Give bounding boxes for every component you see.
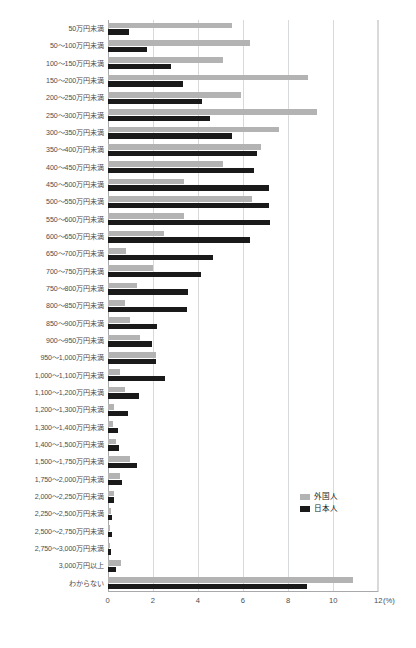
bar-japanese (108, 549, 111, 555)
category-label: わからない (69, 575, 104, 593)
bar-foreign (108, 231, 164, 237)
bar-row: 300〜350万円未満 (108, 124, 379, 142)
bar-row: 450〜500万円未満 (108, 176, 379, 194)
category-label: 750〜800万円未満 (46, 280, 104, 298)
bar-foreign (108, 508, 111, 514)
bar-japanese (108, 428, 118, 434)
bar-row: 1,400〜1,500万円未満 (108, 436, 379, 454)
bar-row: 800〜850万円未満 (108, 297, 379, 315)
category-label: 200〜250万円未満 (46, 89, 104, 107)
bar-foreign (108, 352, 156, 358)
bar-japanese (108, 272, 202, 278)
bar-japanese (108, 255, 213, 261)
bar-row: 150〜200万円未満 (108, 72, 379, 90)
bar-japanese (108, 64, 171, 70)
bar-row: 50〜100万円未満 (108, 37, 379, 55)
bar-japanese (108, 133, 232, 139)
bar-japanese (108, 81, 184, 87)
bar-row: 950〜1,000万円未満 (108, 349, 379, 367)
bar-row: 650〜700万円未満 (108, 245, 379, 263)
bar-row: 400〜450万円未満 (108, 159, 379, 177)
x-tick-0: 0 (106, 596, 110, 605)
bar-row: 100〜150万円未満 (108, 55, 379, 73)
bar-row: 3,000万円以上 (108, 557, 379, 575)
bar-row: 1,750〜2,000万円未満 (108, 471, 379, 489)
bar-foreign (108, 439, 116, 445)
bar-foreign (108, 421, 114, 427)
category-label: 500〜550万円未満 (46, 193, 104, 211)
bar-japanese (108, 29, 129, 35)
bar-japanese (108, 289, 188, 295)
bar-japanese (108, 203, 269, 209)
bar-japanese (108, 307, 187, 313)
category-label: 1,300〜1,400万円未満 (35, 419, 104, 437)
bar-foreign (108, 75, 309, 81)
bar-foreign (108, 283, 137, 289)
bar-japanese (108, 116, 211, 122)
category-label: 2,750〜3,000万円未満 (35, 540, 104, 558)
chart-legend: 外国人 日本人 (300, 493, 338, 513)
legend-label-foreign: 外国人 (314, 493, 338, 501)
bar-japanese (108, 393, 140, 399)
bar-japanese (108, 567, 116, 573)
bar-foreign (108, 560, 122, 566)
bar-japanese (108, 168, 255, 174)
bar-japanese (108, 532, 113, 538)
category-label: 1,750〜2,000万円未満 (35, 471, 104, 489)
bar-japanese (108, 151, 257, 157)
bar-foreign (108, 40, 250, 46)
category-label: 150〜200万円未満 (46, 72, 104, 90)
bar-row: 600〜650万円未満 (108, 228, 379, 246)
bar-foreign (108, 473, 120, 479)
bar-foreign (108, 265, 153, 271)
bar-foreign (108, 57, 223, 63)
bar-japanese (108, 47, 147, 53)
bar-foreign (108, 144, 261, 150)
bar-foreign (108, 109, 318, 115)
bar-row: 550〜600万円未満 (108, 211, 379, 229)
bar-japanese (108, 445, 119, 451)
bar-foreign (108, 23, 232, 29)
category-label: 2,000〜2,250万円未満 (35, 488, 104, 506)
bar-row: 2,500〜2,750万円未満 (108, 523, 379, 541)
x-tick-10: 10 (329, 596, 337, 605)
category-label: 1,200〜1,300万円未満 (35, 401, 104, 419)
bar-japanese (108, 220, 270, 226)
bar-foreign (108, 335, 141, 341)
bar-foreign (108, 248, 126, 254)
bar-row: 250〜300万円未満 (108, 107, 379, 125)
category-label: 800〜850万円未満 (46, 297, 104, 315)
bar-foreign (108, 525, 110, 531)
category-label: 400〜450万円未満 (46, 159, 104, 177)
category-label: 300〜350万円未満 (46, 124, 104, 142)
bar-foreign (108, 92, 241, 98)
bar-foreign (108, 196, 252, 202)
bar-japanese (108, 376, 166, 382)
x-tick-2: 2 (151, 596, 155, 605)
bar-japanese (108, 341, 152, 347)
bar-japanese (108, 359, 156, 365)
category-label: 1,000〜1,100万円未満 (35, 367, 104, 385)
category-label: 50万円未満 (68, 20, 103, 38)
legend-item-japanese: 日本人 (300, 505, 338, 513)
gridline-12 (378, 20, 379, 592)
x-tick-8: 8 (286, 596, 290, 605)
category-label: 600〜650万円未満 (46, 228, 104, 246)
bar-foreign (108, 387, 125, 393)
category-label: 1,500〜1,750万円未満 (35, 453, 104, 471)
bar-row: 1,500〜1,750万円未満 (108, 453, 379, 471)
bar-foreign (108, 161, 223, 167)
bar-foreign (108, 127, 279, 133)
bar-row: 2,750〜3,000万円未満 (108, 540, 379, 558)
legend-item-foreign: 外国人 (300, 493, 338, 501)
bar-row: 850〜900万円未満 (108, 315, 379, 333)
legend-swatch-foreign (300, 494, 310, 501)
bar-japanese (108, 480, 123, 486)
bar-japanese (108, 99, 203, 105)
bar-foreign (108, 491, 115, 497)
bar-row: 200〜250万円未満 (108, 89, 379, 107)
bar-japanese (108, 584, 308, 590)
income-distribution-chart: 50万円未満50〜100万円未満100〜150万円未満150〜200万円未満20… (0, 0, 416, 648)
bar-foreign (108, 213, 185, 219)
category-label: 350〜400万円未満 (46, 141, 104, 159)
